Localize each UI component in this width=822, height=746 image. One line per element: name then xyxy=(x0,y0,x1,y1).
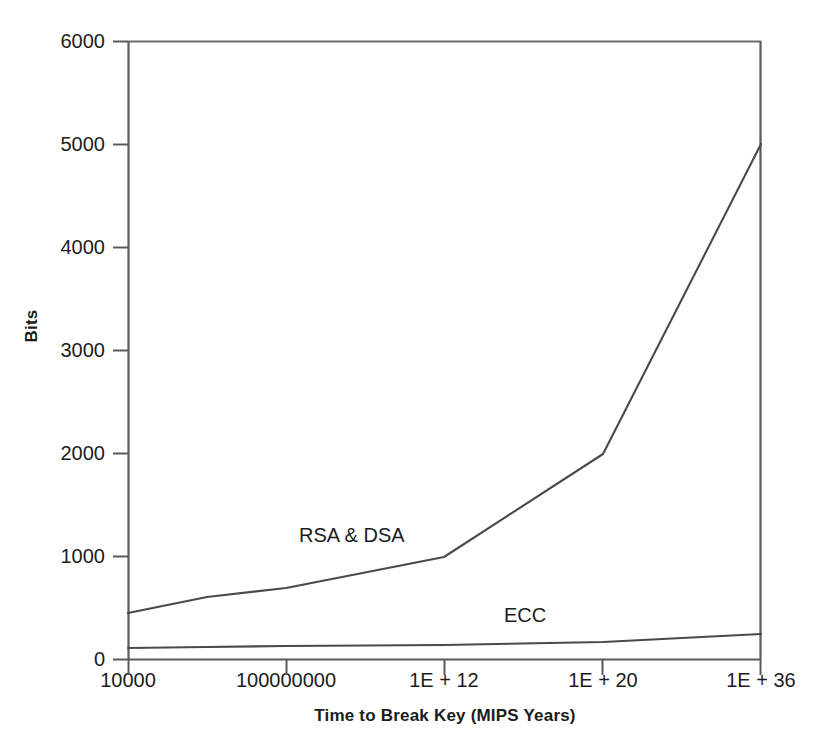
y-axis-ticks xyxy=(113,42,128,660)
chart-container: Bits 6000 5000 4000 3000 2000 1000 0 100… xyxy=(0,0,822,746)
x-axis-ticks xyxy=(129,660,761,675)
axis-lines xyxy=(128,41,761,660)
series-line-ecc xyxy=(128,634,761,648)
series-line-rsa-dsa xyxy=(128,144,761,613)
plot-svg xyxy=(0,0,822,746)
